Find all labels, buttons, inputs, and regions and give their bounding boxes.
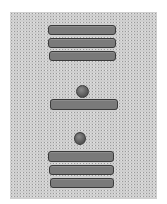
bar [48, 25, 116, 35]
bar [48, 38, 116, 48]
bar [50, 178, 114, 188]
bar [50, 99, 118, 110]
dot [74, 132, 86, 145]
bar [49, 51, 116, 61]
dot [76, 85, 89, 98]
bar [48, 151, 114, 162]
bar [49, 165, 114, 175]
